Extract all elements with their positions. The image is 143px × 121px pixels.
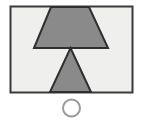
figure-canvas bbox=[0, 0, 143, 121]
caption-circle bbox=[63, 100, 80, 117]
figure-svg bbox=[0, 0, 143, 121]
